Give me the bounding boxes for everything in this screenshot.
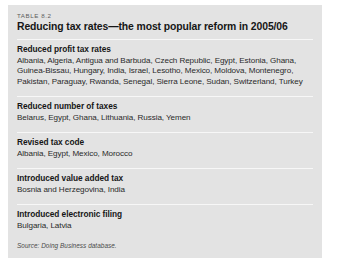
section-body: Belarus, Egypt, Ghana, Lithuania, Russia…: [17, 113, 313, 127]
section-body: Bosnia and Herzegovina, India: [17, 185, 313, 199]
section-body: Bulgaria, Latvia: [17, 221, 313, 235]
section-heading: Reduced profit tax rates: [17, 44, 313, 55]
section-heading: Introduced electronic filing: [17, 209, 313, 220]
table-card-inner: TABLE 8.2 Reducing tax rates—the most po…: [8, 5, 322, 250]
section-introduced-electronic-filing: Introduced electronic filing Bulgaria, L…: [17, 205, 313, 235]
section-body: Albania, Egypt, Mexico, Morocco: [17, 149, 313, 163]
page: TABLE 8.2 Reducing tax rates—the most po…: [0, 0, 337, 271]
source-note: Source: Doing Business database.: [17, 235, 313, 250]
table-number-label: TABLE 8.2: [17, 12, 313, 20]
section-heading: Revised tax code: [17, 137, 313, 148]
section-reduced-number-of-taxes: Reduced number of taxes Belarus, Egypt, …: [17, 97, 313, 127]
section-body: Albania, Algeria, Antigua and Barbuda, C…: [17, 56, 313, 92]
source-suffix: database.: [88, 242, 117, 249]
source-database-name: Doing Business: [41, 242, 86, 249]
section-reduced-profit-tax-rates: Reduced profit tax rates Albania, Algeri…: [17, 40, 313, 92]
source-label: Source:: [17, 242, 39, 249]
section-heading: Introduced value added tax: [17, 173, 313, 184]
section-introduced-value-added-tax: Introduced value added tax Bosnia and He…: [17, 169, 313, 199]
section-heading: Reduced number of taxes: [17, 101, 313, 112]
table-card: TABLE 8.2 Reducing tax rates—the most po…: [8, 5, 322, 258]
table-title: Reducing tax rates—the most popular refo…: [17, 21, 313, 34]
section-revised-tax-code: Revised tax code Albania, Egypt, Mexico,…: [17, 133, 313, 163]
